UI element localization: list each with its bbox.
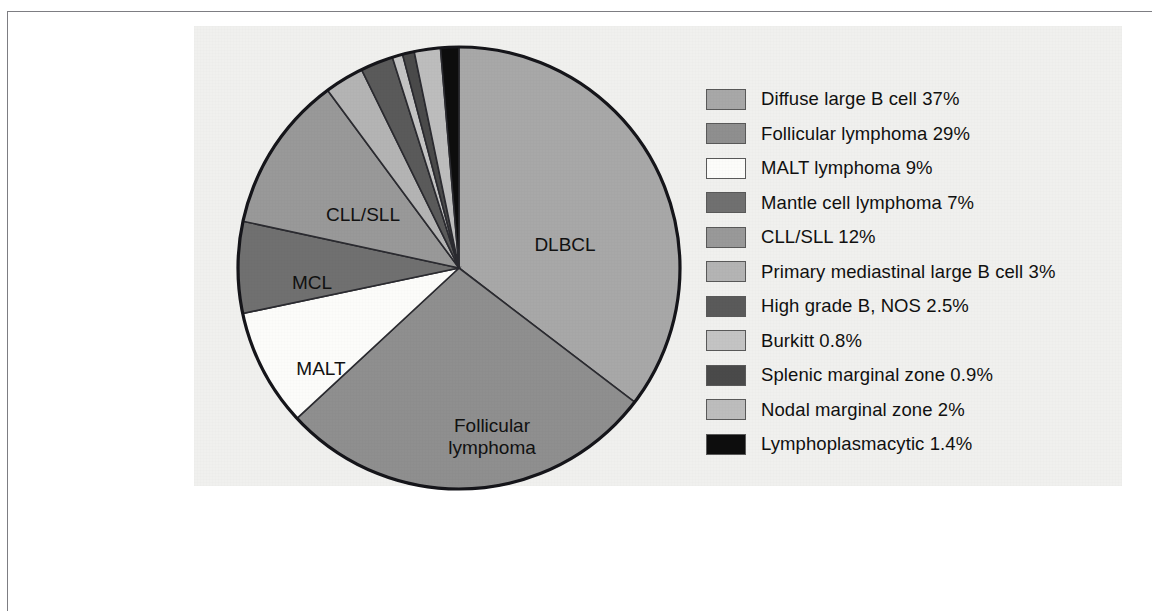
legend-swatch-mcl [706,192,746,213]
pie-chart: DLBCLFollicularlymphomaMALTMCLCLL/SLL [235,44,683,492]
legend-swatch-nodal-mz [706,399,746,420]
legend-item-lpl[interactable]: Lymphoplasmacytic 1.4% [706,427,1136,462]
legend-item-high-grade-b[interactable]: High grade B, NOS 2.5% [706,289,1136,324]
pie-slice-label: MCL [292,272,332,293]
legend-swatch-lpl [706,434,746,455]
legend-swatch-pmblc [706,261,746,282]
legend-label-malt: MALT lymphoma 9% [761,157,933,179]
legend-label-splenic-mz: Splenic marginal zone 0.9% [761,364,993,386]
legend-item-malt[interactable]: MALT lymphoma 9% [706,151,1136,186]
legend-label-dlbcl: Diffuse large B cell 37% [761,88,959,110]
pie-slice-label: CLL/SLL [326,204,400,225]
legend-item-splenic-mz[interactable]: Splenic marginal zone 0.9% [706,358,1136,393]
legend-item-follicular[interactable]: Follicular lymphoma 29% [706,117,1136,152]
legend-item-mcl[interactable]: Mantle cell lymphoma 7% [706,186,1136,221]
legend-swatch-high-grade-b [706,296,746,317]
legend-swatch-splenic-mz [706,365,746,386]
legend-swatch-burkitt [706,330,746,351]
legend-swatch-cll-sll [706,227,746,248]
legend-label-nodal-mz: Nodal marginal zone 2% [761,399,965,421]
pie-slice-label: lymphoma [448,437,536,458]
legend-label-lpl: Lymphoplasmacytic 1.4% [761,433,972,455]
chart-legend: Diffuse large B cell 37%Follicular lymph… [706,82,1136,462]
legend-label-pmblc: Primary mediastinal large B cell 3% [761,261,1055,283]
pie-slice-label: MALT [296,358,346,379]
legend-label-follicular: Follicular lymphoma 29% [761,123,970,145]
legend-item-cll-sll[interactable]: CLL/SLL 12% [706,220,1136,255]
legend-label-mcl: Mantle cell lymphoma 7% [761,192,974,214]
legend-item-burkitt[interactable]: Burkitt 0.8% [706,324,1136,359]
legend-swatch-dlbcl [706,89,746,110]
legend-label-cll-sll: CLL/SLL 12% [761,226,876,248]
legend-item-nodal-mz[interactable]: Nodal marginal zone 2% [706,393,1136,428]
legend-label-high-grade-b: High grade B, NOS 2.5% [761,295,969,317]
legend-item-dlbcl[interactable]: Diffuse large B cell 37% [706,82,1136,117]
legend-item-pmblc[interactable]: Primary mediastinal large B cell 3% [706,255,1136,290]
legend-swatch-malt [706,158,746,179]
legend-label-burkitt: Burkitt 0.8% [761,330,862,352]
pie-svg: DLBCLFollicularlymphomaMALTMCLCLL/SLL [235,44,683,492]
pie-slice-label: DLBCL [534,234,595,255]
legend-swatch-follicular [706,123,746,144]
pie-slice-label: Follicular [454,415,531,436]
